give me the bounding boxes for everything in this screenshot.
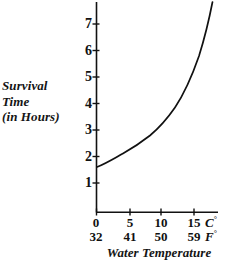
chart-figure: Survival Time (in Hours) 7 6 5 4 3 2 1 0… [0,0,227,267]
survival-time-curve [97,2,213,167]
chart-plot-area [0,0,227,267]
x-axis-title: Water Temperature [96,245,222,261]
